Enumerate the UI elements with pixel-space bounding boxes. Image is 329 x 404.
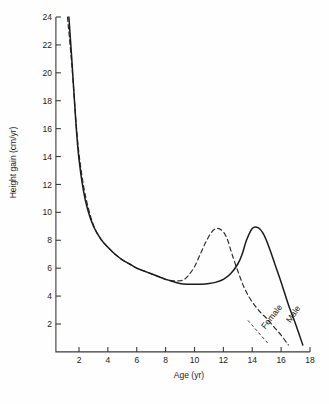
y-tick-label: 20	[42, 68, 52, 78]
x-tick-label: 6	[134, 355, 139, 365]
y-tick-label: 12	[42, 180, 52, 190]
y-tick-label: 8	[47, 235, 52, 245]
y-tick-label: 24	[42, 12, 52, 22]
x-axis-title: Age (yr)	[174, 370, 204, 380]
y-tick-label: 16	[42, 124, 52, 134]
y-axis-title: Height gain (cm/yr)	[8, 126, 18, 198]
y-tick-label: 2	[47, 319, 52, 329]
x-tick-label: 10	[190, 355, 200, 365]
y-tick-label: 4	[47, 291, 52, 301]
x-tick-label: 2	[77, 355, 82, 365]
x-tick-label: 14	[248, 355, 258, 365]
y-tick-label: 6	[47, 263, 52, 273]
x-tick-label: 12	[219, 355, 229, 365]
y-tick-label: 10	[42, 207, 52, 217]
x-tick-label: 8	[163, 355, 168, 365]
y-tick-label: 14	[42, 152, 52, 162]
y-tick-label: 22	[42, 40, 52, 50]
x-tick-label: 4	[106, 355, 111, 365]
height-velocity-figure: 24681012141618202224 24681012141618 Fema…	[0, 0, 329, 404]
chart-canvas: 24681012141618202224 24681012141618 Fema…	[0, 0, 329, 404]
plot-background	[0, 0, 329, 404]
y-tick-label: 18	[42, 96, 52, 106]
x-tick-label: 18	[305, 355, 315, 365]
x-tick-label: 16	[276, 355, 286, 365]
